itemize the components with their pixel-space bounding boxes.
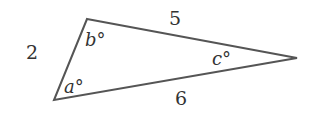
angle-label-c: c° (212, 48, 231, 69)
triangle-diagram: 2 5 6 a° b° c° (0, 0, 318, 127)
angle-label-b: b° (85, 29, 106, 50)
angle-label-a: a° (64, 76, 84, 97)
side-label-left: 2 (26, 41, 38, 63)
side-label-bottom: 6 (175, 87, 187, 109)
side-label-top: 5 (169, 7, 181, 29)
